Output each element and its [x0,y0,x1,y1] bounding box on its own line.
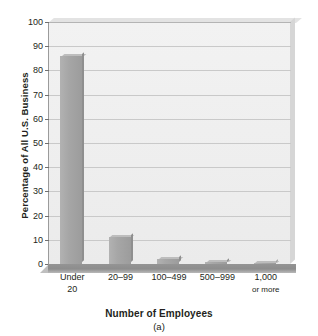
gridline [49,119,291,120]
tick-mark [45,46,49,47]
x-category-line2: or more [236,284,296,296]
bar-1 [60,56,82,264]
x-category-line1: 1,000 [255,272,278,282]
x-category-line1: 100–499 [151,272,186,282]
y-tick-label: 90 [33,41,43,51]
gridline [49,143,291,144]
x-category-line1: Under [60,272,85,282]
gridline [49,70,291,71]
chart-3d-right-slab [290,17,295,264]
bar-chart-figure: Percentage of All U.S. Business 01020304… [0,0,318,336]
y-tick-label: 20 [33,211,43,221]
bar-2 [109,237,131,264]
x-category-line1: 20–99 [108,272,133,282]
tick-mark [45,22,49,23]
y-tick-label: 60 [33,114,43,124]
y-tick-label: 10 [33,235,43,245]
plot-face: 0102030405060708090100 [48,22,290,264]
y-axis-title: Percentage of All U.S. Business [19,36,30,256]
tick-mark [45,119,49,120]
gridline [49,216,291,217]
tick-mark [45,216,49,217]
tick-mark [45,191,49,192]
panel-label: (a) [0,321,318,332]
y-tick-label: 0 [38,259,43,269]
gridline [49,22,291,23]
tick-mark [45,70,49,71]
gridline [49,240,291,241]
x-axis-category-labels: Under2020–99100–499500–9991,000or more [48,272,298,306]
y-tick-label: 70 [33,90,43,100]
x-category-line1: 500–999 [200,272,235,282]
tick-mark [45,167,49,168]
tick-mark [45,95,49,96]
gridline [49,191,291,192]
y-tick-label: 50 [33,138,43,148]
y-tick-label: 30 [33,186,43,196]
bar-side-face [131,234,133,262]
x-category-label-5: 1,000or more [236,272,296,295]
y-tick-label: 80 [33,65,43,75]
y-tick-label: 100 [28,17,43,27]
x-axis-title: Number of Employees [0,308,318,319]
tick-mark [45,143,49,144]
x-category-line2: 20 [42,284,102,296]
gridline [49,167,291,168]
bar-side-face [179,255,181,262]
tick-mark [45,240,49,241]
gridline [49,95,291,96]
bar-side-face [82,52,84,262]
plot-area: 0102030405060708090100 [48,18,300,268]
y-tick-label: 40 [33,162,43,172]
gridline [49,46,291,47]
